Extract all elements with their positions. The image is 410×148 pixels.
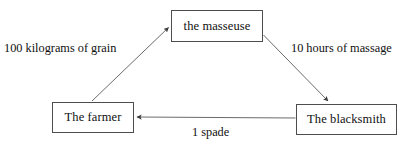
node-farmer: The farmer bbox=[52, 102, 134, 133]
node-masseuse: the masseuse bbox=[171, 10, 263, 42]
node-blacksmith-label: The blacksmith bbox=[307, 113, 386, 126]
node-blacksmith: The blacksmith bbox=[296, 104, 397, 135]
edge-blacksmith-to-farmer bbox=[137, 117, 296, 118]
node-farmer-label: The farmer bbox=[65, 111, 122, 124]
edge-label-spade: 1 spade bbox=[192, 126, 229, 138]
node-masseuse-label: the masseuse bbox=[184, 20, 251, 33]
diagram-canvas: the masseuse The farmer The blacksmith 1… bbox=[0, 0, 410, 148]
edge-label-grain: 100 kilograms of grain bbox=[4, 42, 116, 54]
edge-farmer-to-masseuse bbox=[92, 28, 169, 102]
edge-label-massage: 10 hours of massage bbox=[291, 42, 392, 54]
